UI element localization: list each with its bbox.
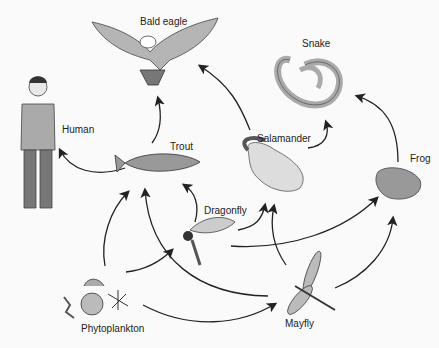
phytoplankton-illustration [64,279,128,318]
arrow-phyto-to-mayfly [143,304,275,322]
label-bald-eagle: Bald eagle [140,16,187,27]
arrow-salamander-to-eagle [200,66,250,130]
arrow-frog-to-snake [357,96,398,162]
label-salamander: Salamander [257,133,311,144]
arrow-trout-to-eagle [152,98,160,143]
arrow-mayfly-to-frog [335,218,393,288]
frog-illustration [376,168,421,199]
arrow-dragonfly-to-frog [231,198,377,247]
dragonfly-illustration [183,217,235,265]
snake-illustration [278,59,340,105]
label-frog: Frog [410,153,431,164]
label-mayfly: Mayfly [285,318,314,329]
arrow-dragonfly-to-trout [184,185,197,222]
arrow-mayfly-to-salamander [272,206,286,265]
mayfly-illustration [284,250,335,318]
arrow-phyto-to-trout [104,192,128,266]
human-illustration [21,76,55,208]
salamander-illustration [244,138,303,191]
label-human: Human [62,124,94,135]
label-trout: Trout [170,141,193,152]
trout-illustration [115,154,200,172]
bald-eagle-illustration [92,18,218,85]
arrow-trout-to-human [60,150,125,172]
food-web-arrows [0,0,439,348]
label-phytoplankton: Phytoplankton [81,323,144,334]
label-snake: Snake [302,38,330,49]
label-dragonfly: Dragonfly [204,205,247,216]
arrow-phyto-to-dragonfly [126,250,172,272]
